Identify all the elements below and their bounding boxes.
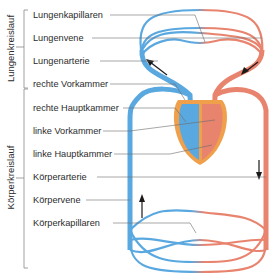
label-koerperkapillaren: Körperkapillaren [33, 218, 100, 229]
label-koerpervene: Körpervene [33, 195, 81, 206]
bracket-koerperkreislauf [16, 89, 28, 268]
label-rechte-vorkammer: rechte Vorkammer [33, 79, 108, 90]
bracket-lungenkreislauf [16, 10, 28, 88]
label-lungenkapillaren: Lungenkapillaren [33, 10, 103, 21]
label-koerperarterie: Körperarterie [33, 172, 87, 183]
label-rechte-hauptkammer: rechte Hauptkammer [33, 103, 119, 114]
label-lungenvene: Lungenvene [33, 33, 84, 44]
label-linke-vorkammer: linke Vorkammer [33, 126, 101, 137]
body-capillaries [130, 210, 266, 272]
label-lungenarterie: Lungenarterie [33, 56, 90, 67]
label-linke-hauptkammer: linke Hauptkammer [33, 149, 112, 160]
heart [174, 100, 227, 165]
